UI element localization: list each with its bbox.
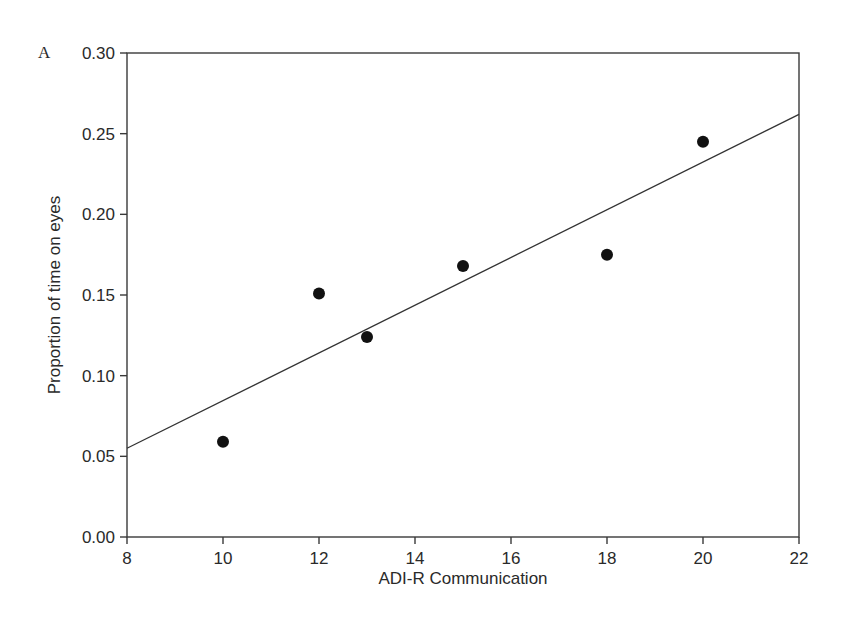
plot-border xyxy=(127,53,799,537)
plot-frame xyxy=(127,53,799,537)
x-tick-label: 8 xyxy=(122,549,131,568)
y-tick-label: 0.10 xyxy=(82,367,115,386)
y-tick-label: 0.20 xyxy=(82,205,115,224)
regression-line xyxy=(127,114,799,448)
x-axis: 810121416182022 xyxy=(122,537,808,568)
x-tick-label: 12 xyxy=(310,549,329,568)
y-tick-label: 0.00 xyxy=(82,528,115,547)
y-tick-label: 0.05 xyxy=(82,447,115,466)
x-tick-label: 22 xyxy=(790,549,809,568)
y-axis: 0.000.050.100.150.200.250.30 xyxy=(82,44,127,547)
x-tick-label: 10 xyxy=(214,549,233,568)
data-point xyxy=(313,287,325,299)
y-tick-label: 0.30 xyxy=(82,44,115,63)
data-points xyxy=(217,136,709,448)
data-point xyxy=(217,436,229,448)
regression-line-path xyxy=(127,114,799,448)
x-tick-label: 18 xyxy=(598,549,617,568)
y-tick-label: 0.25 xyxy=(82,125,115,144)
data-point xyxy=(361,331,373,343)
x-tick-label: 16 xyxy=(502,549,521,568)
x-axis-label: ADI-R Communication xyxy=(378,569,547,588)
data-point xyxy=(697,136,709,148)
x-tick-label: 14 xyxy=(406,549,425,568)
data-point xyxy=(601,249,613,261)
y-axis-label: Proportion of time on eyes xyxy=(45,196,64,394)
data-point xyxy=(457,260,469,272)
scatter-chart: A 0.000.050.100.150.200.250.30 810121416… xyxy=(0,0,844,623)
panel-label: A xyxy=(38,43,51,62)
y-tick-label: 0.15 xyxy=(82,286,115,305)
x-tick-label: 20 xyxy=(694,549,713,568)
